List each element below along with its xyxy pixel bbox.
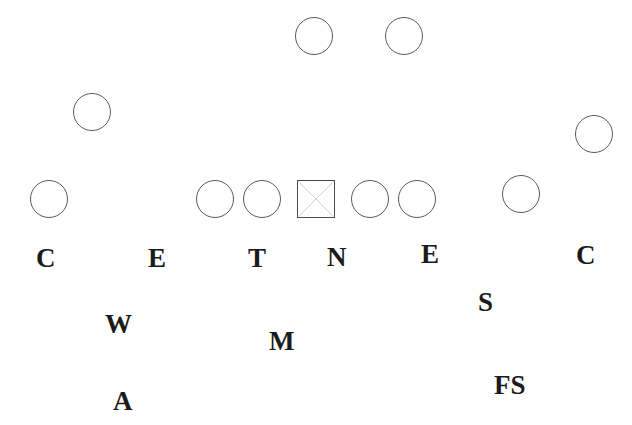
- lineman-right-guard-marker: [351, 180, 389, 218]
- corner-left-label: C: [36, 245, 56, 272]
- receiver-wide-right-marker: [575, 115, 613, 153]
- strong-safety-label: S: [478, 289, 493, 316]
- center-with-ball-marker: [297, 180, 335, 218]
- tackle-label: T: [248, 245, 266, 272]
- lineman-left-guard-marker: [243, 180, 281, 218]
- mike-linebacker-label: M: [269, 328, 294, 355]
- free-safety-label: FS: [494, 372, 526, 399]
- lineman-left-tackle-marker: [196, 180, 234, 218]
- will-linebacker-label: W: [105, 311, 132, 338]
- formation-diagram: CETNECSWMFSA: [0, 0, 632, 425]
- nose-label: N: [327, 244, 347, 271]
- rover-safety-label: A: [113, 388, 133, 415]
- square-x-icon: [298, 181, 334, 217]
- lineman-far-left-marker: [30, 180, 68, 218]
- lineman-far-right-marker: [502, 175, 540, 213]
- end-left-label: E: [148, 245, 166, 272]
- receiver-right-slot-marker: [385, 17, 423, 55]
- receiver-left-slot-marker: [295, 17, 333, 55]
- lineman-right-tackle-marker: [398, 180, 436, 218]
- corner-right-label: C: [576, 242, 596, 269]
- end-right-label: E: [421, 241, 439, 268]
- receiver-wide-left-marker: [73, 93, 111, 131]
